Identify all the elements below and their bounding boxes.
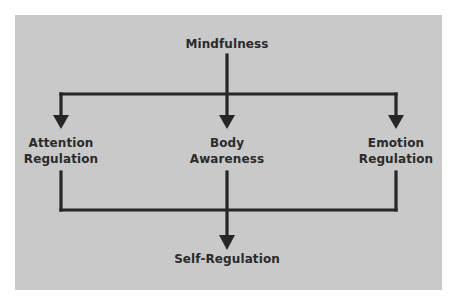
node-body-awareness: Body Awareness <box>182 135 272 167</box>
arrow-down-icon <box>219 115 235 129</box>
arrow-down-icon <box>219 235 235 250</box>
arrow-down-icon <box>53 115 69 129</box>
node-attention-regulation: Attention Regulation <box>16 135 106 167</box>
node-emotion-regulation: Emotion Regulation <box>351 135 441 167</box>
node-label-line: Attention <box>16 135 106 151</box>
node-label-line: Regulation <box>351 151 441 167</box>
node-label-line: Emotion <box>351 135 441 151</box>
node-mindfulness: Mindfulness <box>167 36 287 52</box>
node-label-line: Body <box>182 135 272 151</box>
node-label-line: Regulation <box>16 151 106 167</box>
arrow-down-icon <box>388 115 404 129</box>
node-self-regulation: Self-Regulation <box>157 251 297 267</box>
node-label-line: Awareness <box>182 151 272 167</box>
